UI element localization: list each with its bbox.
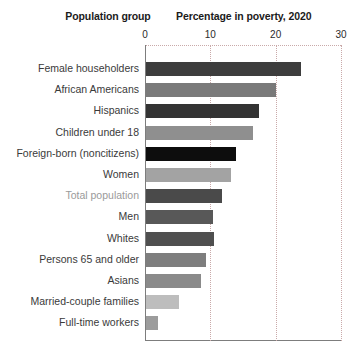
bar-row: Whites <box>0 232 363 246</box>
bar-label-hispanics: Hispanics <box>0 103 139 118</box>
bar-label-persons-65-and-older: Persons 65 and older <box>0 252 139 267</box>
bar-african-americans <box>146 83 276 97</box>
bar-label-men: Men <box>0 209 139 224</box>
bar-asians <box>146 274 201 288</box>
bar-label-foreign-born-noncitizens: Foreign-born (noncitizens) <box>0 146 139 161</box>
bar-label-married-couple-families: Married-couple families <box>0 294 139 309</box>
bar-row: Women <box>0 168 363 182</box>
column-header-population-group: Population group <box>42 10 174 22</box>
bar-married-couple-families <box>146 295 179 309</box>
axis-top-dotted-line <box>145 45 341 46</box>
bar-label-total-population: Total population <box>0 188 139 203</box>
bar-persons-65-and-older <box>146 253 206 267</box>
bar-label-children-under-18: Children under 18 <box>0 125 139 140</box>
poverty-bar-chart: Population group Percentage in poverty, … <box>0 0 363 356</box>
bar-men <box>146 210 213 224</box>
bar-label-asians: Asians <box>0 273 139 288</box>
bar-row: Married-couple families <box>0 295 363 309</box>
bar-row: Persons 65 and older <box>0 253 363 267</box>
bar-female-householders <box>146 62 301 76</box>
bar-row: African Americans <box>0 83 363 97</box>
bar-whites <box>146 232 214 246</box>
bar-row: Foreign-born (noncitizens) <box>0 147 363 161</box>
bar-row: Hispanics <box>0 104 363 118</box>
bar-row: Men <box>0 210 363 224</box>
bar-label-women: Women <box>0 167 139 182</box>
bar-row: Total population <box>0 189 363 203</box>
bar-row: Female householders <box>0 62 363 76</box>
bar-label-african-americans: African Americans <box>0 82 139 97</box>
column-header-percentage: Percentage in poverty, 2020 <box>176 10 346 22</box>
bar-label-female-householders: Female householders <box>0 61 139 76</box>
bar-total-population <box>146 189 222 203</box>
bar-row: Asians <box>0 274 363 288</box>
bar-label-whites: Whites <box>0 231 139 246</box>
x-tick-label-10: 10 <box>205 29 216 40</box>
bar-row: Full-time workers <box>0 316 363 330</box>
x-tick-label-20: 20 <box>270 29 281 40</box>
x-tick-label-0: 0 <box>142 29 148 40</box>
bar-row: Children under 18 <box>0 126 363 140</box>
bar-foreign-born-noncitizens <box>146 147 236 161</box>
axis-bottom-line <box>145 340 342 341</box>
bar-label-full-time-workers: Full-time workers <box>0 315 139 330</box>
x-tick-label-30: 30 <box>335 29 346 40</box>
bar-hispanics <box>146 104 259 118</box>
bar-children-under-18 <box>146 126 253 140</box>
bar-full-time-workers <box>146 316 158 330</box>
bar-women <box>146 168 231 182</box>
